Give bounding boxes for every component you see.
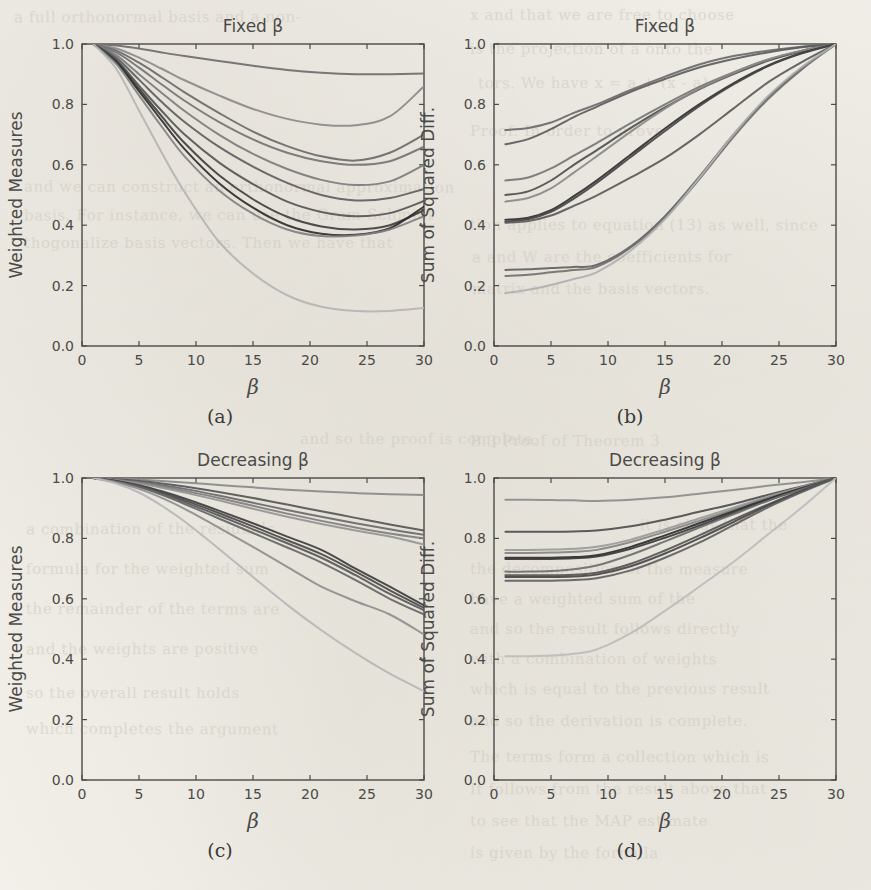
y-tick-label: 0.2 (464, 712, 486, 728)
x-tick-label: 10 (599, 352, 617, 368)
y-tick-label: 1.0 (464, 36, 486, 52)
subfigure-caption-d: (d) (600, 839, 660, 861)
y-axis-label: Sum of Squared Diff. (418, 107, 438, 283)
y-tick-label: 0.8 (52, 96, 74, 112)
y-axis-label: Sum of Squared Diff. (418, 541, 438, 717)
x-tick-label: 30 (827, 352, 845, 368)
x-tick-label: 0 (78, 786, 87, 802)
y-tick-label: 0.4 (464, 217, 486, 233)
y-tick-label: 0.0 (52, 772, 74, 788)
y-tick-label: 0.4 (464, 651, 486, 667)
y-tick-label: 0.8 (52, 530, 74, 546)
x-tick-label: 20 (713, 352, 731, 368)
y-tick-label: 0.2 (464, 278, 486, 294)
x-axis-label: β (658, 809, 671, 833)
x-tick-label: 15 (656, 352, 674, 368)
x-axis-label: β (246, 375, 259, 399)
y-tick-label: 1.0 (464, 470, 486, 486)
x-axis-label: β (658, 375, 671, 399)
series-line-curve-8 (505, 44, 836, 223)
y-tick-label: 0.8 (464, 96, 486, 112)
x-tick-label: 25 (770, 352, 788, 368)
x-tick-label: 25 (770, 786, 788, 802)
x-tick-label: 10 (187, 352, 205, 368)
y-tick-label: 0.8 (464, 530, 486, 546)
x-tick-label: 25 (358, 352, 376, 368)
y-tick-label: 0.0 (464, 338, 486, 354)
series-line-curve-2 (505, 478, 836, 532)
y-tick-label: 0.0 (52, 338, 74, 354)
panel-title: Decreasing β (197, 450, 309, 470)
y-tick-label: 0.6 (464, 591, 486, 607)
series-line-curve-7 (93, 478, 424, 608)
series-line-curve-9 (93, 44, 424, 235)
figure-four-panel-beta-plots: Fixed β0510152025300.00.20.40.60.81.0βWe… (0, 0, 871, 890)
plot-frame (82, 44, 424, 346)
x-tick-label: 10 (187, 786, 205, 802)
y-tick-label: 0.2 (52, 278, 74, 294)
series-group (93, 478, 424, 691)
x-tick-label: 0 (490, 786, 499, 802)
chart-panel-c: Decreasing β0510152025300.00.20.40.60.81… (0, 434, 440, 834)
y-tick-label: 1.0 (52, 470, 74, 486)
y-axis-label: Weighted Measures (6, 545, 26, 712)
x-tick-label: 20 (301, 352, 319, 368)
x-axis-label: β (246, 809, 259, 833)
x-tick-label: 5 (547, 786, 556, 802)
subfigure-caption-a: (a) (190, 405, 250, 427)
series-group (93, 44, 424, 311)
x-tick-label: 0 (78, 352, 87, 368)
x-tick-label: 0 (490, 352, 499, 368)
series-line-curve-1 (505, 44, 836, 130)
y-tick-label: 1.0 (52, 36, 74, 52)
panel-title: Fixed β (223, 16, 283, 36)
y-axis-label: Weighted Measures (6, 111, 26, 278)
x-tick-label: 15 (656, 786, 674, 802)
x-tick-label: 5 (135, 352, 144, 368)
chart-panel-a: Fixed β0510152025300.00.20.40.60.81.0βWe… (0, 0, 440, 400)
y-tick-label: 0.6 (52, 591, 74, 607)
chart-panel-b: Fixed β0510152025300.00.20.40.60.81.0βSu… (412, 0, 852, 400)
chart-panel-d: Decreasing β0510152025300.00.20.40.60.81… (412, 434, 852, 834)
series-line-curve-8 (93, 44, 424, 229)
plot-frame (494, 44, 836, 346)
series-line-curve-3 (505, 44, 836, 181)
x-tick-label: 15 (244, 786, 262, 802)
subfigure-caption-c: (c) (190, 839, 250, 861)
x-tick-label: 5 (135, 786, 144, 802)
series-group (505, 478, 836, 656)
subfigure-caption-b: (b) (600, 405, 660, 427)
series-line-curve-10 (93, 478, 424, 634)
y-tick-label: 0.6 (52, 157, 74, 173)
panel-title: Fixed β (635, 16, 695, 36)
series-line-curve-4 (505, 44, 836, 195)
x-tick-label: 25 (358, 786, 376, 802)
x-tick-label: 20 (713, 786, 731, 802)
series-line-curve-4 (93, 44, 424, 165)
x-tick-label: 5 (547, 352, 556, 368)
y-tick-label: 0.6 (464, 157, 486, 173)
plot-frame (494, 478, 836, 780)
y-tick-label: 0.0 (464, 772, 486, 788)
panel-title: Decreasing β (609, 450, 721, 470)
x-tick-label: 30 (827, 786, 845, 802)
series-line-curve-11 (505, 478, 836, 656)
series-line-curve-10 (93, 44, 424, 237)
y-tick-label: 0.4 (52, 217, 74, 233)
y-tick-label: 0.2 (52, 712, 74, 728)
x-tick-label: 20 (301, 786, 319, 802)
x-tick-label: 10 (599, 786, 617, 802)
series-group (505, 44, 836, 293)
y-tick-label: 0.4 (52, 651, 74, 667)
x-tick-label: 15 (244, 352, 262, 368)
